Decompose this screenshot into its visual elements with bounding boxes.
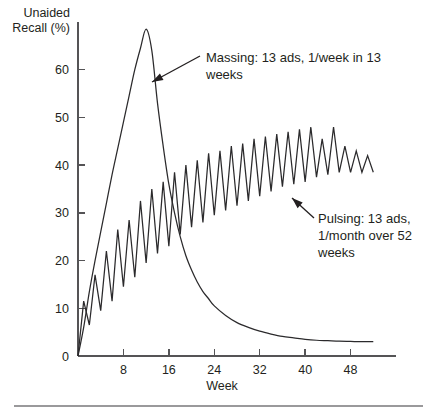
x-tick-label: 24 xyxy=(207,363,221,377)
y-tick-label: 10 xyxy=(55,302,69,316)
y-tick-label: 30 xyxy=(55,206,69,220)
y-tick-label: 40 xyxy=(55,159,69,173)
unaided-recall-line-chart: Unaided Recall (%) 0102030405060 8162432… xyxy=(0,0,437,417)
annotation-text-line: 1/month over 52 xyxy=(318,228,412,243)
x-tick-label: 16 xyxy=(162,363,176,377)
y-axis-title-line-2: Recall (%) xyxy=(12,21,70,35)
y-tick-label: 20 xyxy=(55,254,69,268)
y-tick-label: 50 xyxy=(55,111,69,125)
x-axis-title: Week xyxy=(206,379,238,393)
x-tick-label: 8 xyxy=(120,363,127,377)
x-tick-label: 48 xyxy=(344,363,358,377)
annotation-text-line: Massing: 13 ads, 1/week in 13 xyxy=(206,50,381,65)
annotation-text-line: weeks xyxy=(205,67,243,82)
annotation-text-line: weeks xyxy=(317,245,355,260)
annotation-text-line: Pulsing: 13 ads, xyxy=(318,211,411,226)
chart-figure: Unaided Recall (%) 0102030405060 8162432… xyxy=(0,0,437,417)
y-axis-title-line-1: Unaided xyxy=(23,6,70,20)
x-tick-label: 32 xyxy=(253,363,267,377)
x-tick-label: 40 xyxy=(298,363,312,377)
y-tick-label: 0 xyxy=(62,350,69,364)
y-tick-label: 60 xyxy=(55,63,69,77)
